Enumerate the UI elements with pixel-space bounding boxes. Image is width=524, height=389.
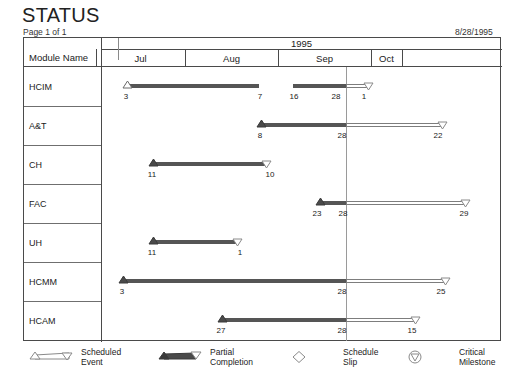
module-row-label-hcmm: HCMM	[29, 277, 57, 288]
module-row-label-ch: CH	[29, 160, 42, 171]
bar-date-label: 3	[113, 287, 131, 296]
bar-date-label: 28	[333, 326, 351, 335]
bar-date-label: 1	[355, 92, 373, 101]
bar-scheduled-remaining[interactable]	[346, 279, 446, 283]
row-divider	[24, 145, 101, 146]
bar-date-label: 23	[308, 209, 326, 218]
page-number-label: Page 1 of 1	[23, 27, 66, 37]
milestone-end-open-triangle-icon	[437, 121, 448, 130]
bar-partial-completion[interactable]	[151, 240, 238, 244]
bar-partial-completion[interactable]	[293, 84, 346, 88]
legend-label-line2: Event	[81, 358, 121, 368]
bar-scheduled-remaining[interactable]	[346, 201, 466, 205]
scheduled-event-icon	[29, 350, 75, 364]
bar-date-label: 7	[251, 92, 269, 101]
milestone-end-open-triangle-icon	[363, 82, 374, 91]
bar-partial-completion[interactable]	[259, 123, 346, 127]
milestone-end-open-triangle-icon	[440, 277, 451, 286]
bar-date-label: 3	[117, 92, 135, 101]
month-separator-end	[402, 49, 403, 67]
legend-label-line2: Completion	[210, 358, 253, 368]
bar-partial-completion[interactable]	[151, 162, 267, 166]
schedule-slip-glyph	[291, 350, 337, 364]
month-header-sep: Sep	[278, 51, 371, 65]
module-row-label-uh: UH	[29, 238, 42, 249]
milestone-start-filled-triangle-icon	[118, 275, 129, 284]
milestone-start-filled-triangle-icon	[217, 314, 228, 323]
critical-milestone-glyph	[407, 350, 453, 364]
module-column-divider	[101, 38, 102, 342]
bar-date-label: 25	[432, 287, 450, 296]
module-row-label-a-t: A&T	[29, 121, 47, 132]
milestone-end-open-triangle-icon	[232, 238, 243, 247]
bar-date-label: 28	[333, 131, 351, 140]
month-separator-sep	[278, 49, 279, 67]
timeline-year-label: 1995	[101, 38, 502, 49]
milestone-start-filled-triangle-icon	[148, 236, 159, 245]
module-row-label-hcim: HCIM	[29, 82, 52, 93]
legend-label: PartialCompletion	[210, 348, 253, 367]
bar-date-label: 28	[333, 287, 351, 296]
gantt-chart-frame: Module Name 1995 JulAugSepOct HCIMA&TCHF…	[23, 37, 501, 341]
bar-date-label: 1	[231, 248, 249, 257]
month-separator-oct	[371, 49, 372, 67]
milestone-start-filled-triangle-icon	[315, 197, 326, 206]
bar-date-label: 8	[251, 131, 269, 140]
bar-partial-completion[interactable]	[220, 318, 346, 322]
module-name-column-header: Module Name	[29, 51, 88, 65]
document-date: 8/28/1995	[455, 27, 493, 37]
page-title: STATUS	[22, 4, 100, 26]
bar-date-label: 29	[455, 209, 473, 218]
milestone-start-filled-triangle-icon	[256, 119, 267, 128]
bar-date-label: 11	[143, 248, 161, 257]
bar-date-label: 22	[429, 131, 447, 140]
row-divider	[24, 262, 101, 263]
month-header-oct: Oct	[371, 51, 402, 65]
row-divider	[24, 106, 101, 107]
legend-label: CriticalMilestone	[459, 348, 495, 367]
month-separator-jul	[96, 49, 97, 67]
critical-milestone-icon	[407, 350, 453, 364]
module-row-label-hcam: HCAM	[29, 316, 56, 327]
legend-label: ScheduledEvent	[81, 348, 121, 367]
bar-scheduled-remaining[interactable]	[346, 123, 443, 127]
bar-date-label: 10	[261, 170, 279, 179]
legend-label-line2: Milestone	[459, 358, 495, 368]
legend-label: ScheduleSlip	[343, 348, 378, 367]
year-header-divider	[101, 49, 502, 50]
partial-completion-glyph	[158, 350, 204, 364]
bar-partial-completion[interactable]	[121, 279, 346, 283]
scheduled-event-glyph	[29, 350, 75, 364]
bar-scheduled-remaining[interactable]	[346, 318, 416, 322]
bar-date-label: 11	[143, 170, 161, 179]
bar-date-label: 15	[403, 326, 421, 335]
partial-completion-icon	[158, 350, 204, 364]
schedule-slip-icon	[291, 350, 337, 364]
row-divider	[24, 301, 101, 302]
bar-partial-completion[interactable]	[125, 84, 259, 88]
row-divider	[24, 184, 101, 185]
row-divider	[24, 223, 101, 224]
milestone-end-open-triangle-icon	[261, 160, 272, 169]
bar-date-label: 28	[334, 209, 352, 218]
month-header-aug: Aug	[185, 51, 278, 65]
module-row-label-fac: FAC	[29, 199, 47, 210]
milestone-start-filled-triangle-icon	[148, 158, 159, 167]
chart-legend: ScheduledEventPartialCompletionScheduleS…	[23, 348, 501, 386]
legend-label-line2: Slip	[343, 358, 378, 368]
milestone-end-open-triangle-icon	[460, 199, 471, 208]
milestone-start-open-triangle-icon	[122, 80, 133, 89]
month-header-jul: Jul	[96, 51, 185, 65]
bar-date-label: 28	[327, 92, 345, 101]
milestone-end-open-triangle-icon	[410, 316, 421, 325]
bar-date-label: 16	[285, 92, 303, 101]
bar-date-label: 27	[212, 326, 230, 335]
status-gantt-page: STATUS Page 1 of 1 8/28/1995 Module Name…	[0, 0, 524, 389]
month-separator-aug	[185, 49, 186, 67]
